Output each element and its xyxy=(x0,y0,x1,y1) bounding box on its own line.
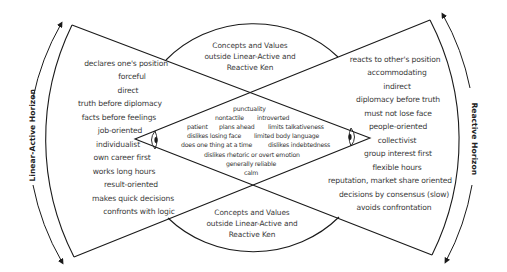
trait: dislikes indebtedness xyxy=(268,140,330,149)
trait: nontactile xyxy=(215,113,244,122)
trait: plans ahead xyxy=(219,122,255,131)
trait: dislikes losing face xyxy=(187,131,241,140)
cultural-horizons-diagram: Linear-Active Horizon Reactive Horizon C… xyxy=(0,0,507,272)
trait: generally reliable xyxy=(226,159,276,168)
trait: punctuality xyxy=(233,104,266,113)
trait: does one thing at a time xyxy=(181,140,252,149)
trait: calm xyxy=(244,168,258,177)
trait: introverted xyxy=(257,113,289,122)
trait: limited body language xyxy=(254,131,319,140)
shared-traits: punctuality nontactile introverted patie… xyxy=(0,0,507,272)
trait: dislikes rhetoric or overt emotion xyxy=(204,150,300,159)
trait: patient xyxy=(187,122,208,131)
trait: limits talkativeness xyxy=(268,122,324,131)
